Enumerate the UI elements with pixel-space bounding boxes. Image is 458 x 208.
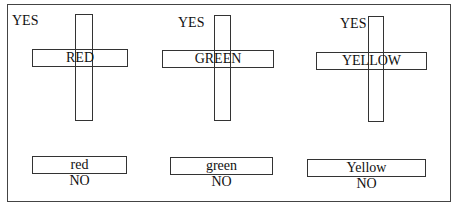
word-box-green: GREEN: [162, 50, 274, 68]
no-label-yellow: NO: [307, 177, 426, 191]
lower-label-red: red: [71, 158, 89, 172]
yes-label-yellow: YES: [340, 17, 366, 31]
word-box-red: RED: [32, 49, 128, 67]
lower-box-yellow: Yellow: [307, 159, 426, 177]
lower-label-yellow: Yellow: [347, 161, 387, 175]
lower-box-red: red: [32, 156, 127, 174]
no-label-red: NO: [32, 174, 127, 188]
yes-label-red: YES: [12, 14, 38, 28]
lower-box-green: green: [170, 157, 273, 175]
no-label-green: NO: [170, 175, 273, 189]
vertical-bar-green: [214, 15, 231, 121]
word-label-red: RED: [66, 51, 94, 65]
vertical-bar-red: [75, 14, 93, 121]
word-label-yellow: YELLOW: [342, 54, 401, 68]
word-label-green: GREEN: [195, 52, 242, 66]
yes-label-green: YES: [178, 16, 204, 30]
lower-label-green: green: [206, 159, 237, 173]
word-box-yellow: YELLOW: [316, 52, 427, 70]
